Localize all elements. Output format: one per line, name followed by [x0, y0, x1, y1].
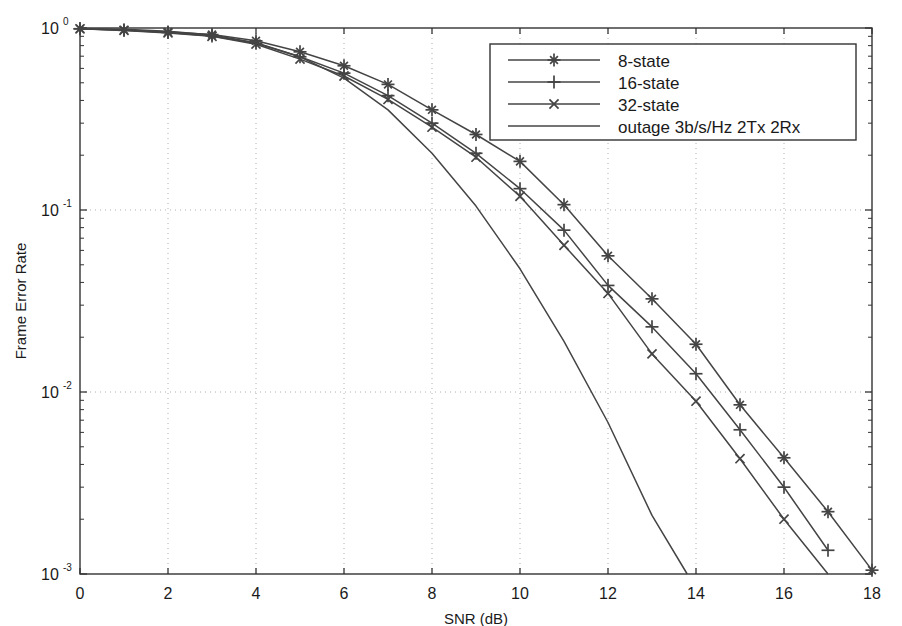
legend-label: 16-state [618, 74, 679, 93]
x-axis-title: SNR (dB) [444, 610, 508, 626]
legend-label: 8-state [618, 52, 670, 71]
x-tick-label: 10 [511, 585, 529, 602]
x-tick-label: 18 [863, 585, 881, 602]
y-axis-title: Frame Error Rate [12, 243, 29, 360]
y-tick-exponent: 0 [63, 16, 69, 27]
x-tick-label: 12 [599, 585, 617, 602]
legend-label: 32-state [618, 96, 679, 115]
y-tick-label: 10-1 [41, 198, 72, 219]
figure-container: 02468101214161810010-110-210-3 SNR (dB)F… [0, 0, 902, 626]
axis-titles-layer: SNR (dB)Frame Error Rate [12, 243, 508, 626]
y-tick-mantissa: 10 [41, 384, 59, 401]
x-tick-label: 4 [252, 585, 261, 602]
y-tick-exponent: -1 [63, 198, 72, 209]
x-tick-label: 0 [76, 585, 85, 602]
y-tick-mantissa: 10 [41, 202, 59, 219]
x-tick-label: 6 [340, 585, 349, 602]
x-tick-label: 16 [775, 585, 793, 602]
frame-error-rate-chart: 02468101214161810010-110-210-3 SNR (dB)F… [0, 0, 902, 626]
y-tick-label: 100 [41, 16, 69, 37]
legend-label: outage 3b/s/Hz 2Tx 2Rx [618, 118, 801, 137]
y-tick-label: 10-3 [41, 562, 72, 583]
legend-box: 8-state16-state32-stateoutage 3b/s/Hz 2T… [490, 44, 856, 140]
y-tick-exponent: -3 [63, 562, 72, 573]
y-tick-exponent: -2 [63, 380, 72, 391]
y-tick-label: 10-2 [41, 380, 72, 401]
x-tick-label: 14 [687, 585, 705, 602]
y-tick-mantissa: 10 [41, 566, 59, 583]
x-tick-label: 8 [428, 585, 437, 602]
x-tick-label: 2 [164, 585, 173, 602]
y-tick-mantissa: 10 [41, 20, 59, 37]
